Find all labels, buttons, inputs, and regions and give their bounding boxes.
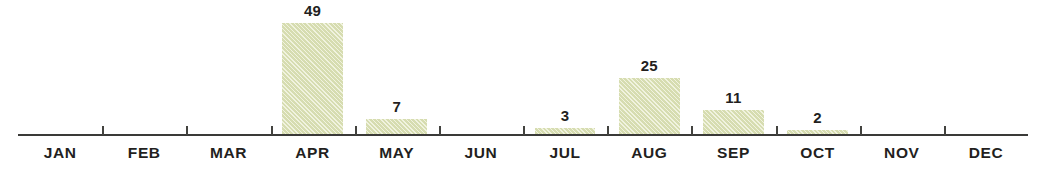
bar-column-sep: 11 xyxy=(691,0,775,135)
x-axis-tick xyxy=(102,126,104,135)
x-axis-tick xyxy=(944,126,946,135)
x-axis-tick xyxy=(691,126,693,135)
bar-value-label: 2 xyxy=(776,110,860,125)
x-tick-label-sep: SEP xyxy=(691,142,775,168)
x-tick-label-aug: AUG xyxy=(607,142,691,168)
bar-value-label: 7 xyxy=(355,99,439,114)
bar-column-oct: 2 xyxy=(776,0,860,135)
bar-columns: 49 7 3 25 11 2 xyxy=(18,0,1028,135)
bar-column-jan xyxy=(18,0,102,135)
bar-sep[interactable] xyxy=(703,110,764,135)
x-axis-tick xyxy=(523,126,525,135)
x-tick-label-mar: MAR xyxy=(186,142,270,168)
x-axis-labels: JAN FEB MAR APR MAY JUN JUL AUG SEP OCT … xyxy=(18,142,1028,168)
bar-column-jul: 3 xyxy=(523,0,607,135)
x-tick-label-nov: NOV xyxy=(860,142,944,168)
bar-chart: 49 7 3 25 11 2 xyxy=(0,0,1040,176)
bar-column-feb xyxy=(102,0,186,135)
bar-column-may: 7 xyxy=(355,0,439,135)
x-axis-tick xyxy=(355,126,357,135)
bar-may[interactable] xyxy=(366,119,427,135)
bar-column-nov xyxy=(860,0,944,135)
bar-column-mar xyxy=(186,0,270,135)
x-tick-label-oct: OCT xyxy=(776,142,860,168)
bar-column-jun xyxy=(439,0,523,135)
x-tick-label-apr: APR xyxy=(271,142,355,168)
bar-value-label: 3 xyxy=(523,108,607,123)
x-tick-label-jan: JAN xyxy=(18,142,102,168)
x-tick-label-dec: DEC xyxy=(944,142,1028,168)
bar-column-dec xyxy=(944,0,1028,135)
x-axis-tick xyxy=(271,126,273,135)
x-tick-label-feb: FEB xyxy=(102,142,186,168)
bar-value-label: 25 xyxy=(607,58,691,73)
bar-apr[interactable] xyxy=(282,23,343,135)
bar-aug[interactable] xyxy=(619,78,680,135)
x-axis-tick xyxy=(607,126,609,135)
bar-value-label: 11 xyxy=(691,90,775,105)
x-axis-tick xyxy=(439,126,441,135)
x-tick-label-jul: JUL xyxy=(523,142,607,168)
bar-column-aug: 25 xyxy=(607,0,691,135)
x-tick-label-may: MAY xyxy=(355,142,439,168)
x-axis-tick xyxy=(186,126,188,135)
x-tick-label-jun: JUN xyxy=(439,142,523,168)
x-axis-tick xyxy=(776,126,778,135)
x-axis-tick xyxy=(860,126,862,135)
bar-column-apr: 49 xyxy=(271,0,355,135)
bar-value-label: 49 xyxy=(271,3,355,18)
